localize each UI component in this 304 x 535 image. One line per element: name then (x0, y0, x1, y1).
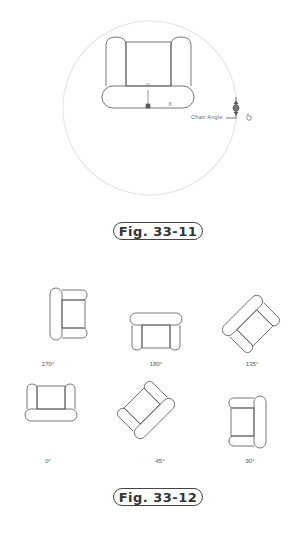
angle-label-0: 0° (45, 458, 51, 464)
angle-label-135: 135° (246, 361, 258, 367)
angle-label-270: 270° (42, 361, 54, 367)
chair-0 (25, 384, 77, 421)
angle-label-45: 45° (155, 458, 164, 464)
figure-caption-33-12: Fig. 33-12 (113, 488, 203, 506)
chair-270 (50, 288, 87, 340)
chair-135 (220, 293, 283, 356)
chair-45 (114, 378, 177, 441)
angle-label-90: 90° (245, 458, 254, 464)
angle-label-180: 180° (150, 361, 162, 367)
chair-180 (130, 313, 182, 350)
chair-90 (229, 396, 266, 448)
figure-33-12-drawing (0, 0, 304, 535)
